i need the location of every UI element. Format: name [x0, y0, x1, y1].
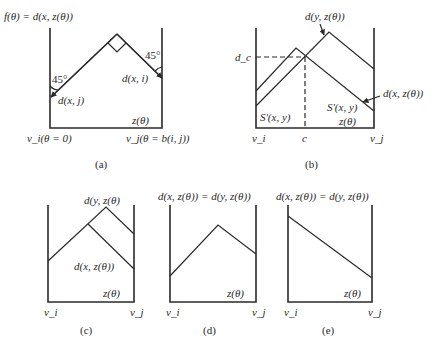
- panel-a-label-vj: v_j(θ = b(i, j)): [126, 132, 190, 145]
- panel-a-right-angle-icon: [108, 43, 126, 52]
- panel-a-angle-right: 45°: [145, 49, 160, 61]
- panel-b-curve-y: [256, 32, 374, 106]
- panel-b-label-dc: d_c: [235, 51, 251, 63]
- panel-e-curve: [288, 216, 372, 278]
- panel-a-label-vi: v_i(θ = 0): [27, 132, 72, 145]
- panel-b-dx-pointer-arrow: [363, 96, 380, 102]
- panel-c-label-z: z(θ): [102, 287, 120, 300]
- panel-e-label-vj: v_j: [368, 306, 381, 318]
- panel-a-left-angle-arc-icon: [50, 86, 58, 90]
- panel-b: d(y, z(θ)) d(x, z(θ)) d_c S'(x, y) S'(x,…: [235, 10, 424, 171]
- panel-b-caption: (b): [305, 158, 318, 171]
- panel-d-label-vj: v_j: [252, 306, 265, 318]
- panel-d-caption: (d): [203, 324, 216, 337]
- panel-c: d(y, z(θ) d(x, z(θ)) z(θ) v_i v_j (c): [44, 194, 143, 337]
- panel-d-label-vi: v_i: [166, 306, 179, 318]
- panel-a-label-z: z(θ): [131, 114, 149, 127]
- panel-a-right-angle-arc-icon: [155, 67, 162, 71]
- panel-e: d(x, z(θ)) = d(y, z(θ)) z(θ) v_i v_j (e): [276, 190, 381, 337]
- panel-c-label-dy: d(y, z(θ): [84, 194, 120, 207]
- panel-b-label-z: z(θ): [338, 115, 356, 128]
- panel-a-angle-left: 45°: [52, 73, 67, 85]
- panel-e-title: d(x, z(θ)) = d(y, z(θ)): [276, 190, 369, 203]
- panel-c-label-vi: v_i: [44, 306, 57, 318]
- panel-b-label-s-right: S'(x, y): [327, 101, 358, 114]
- panel-a-label-dxj: d(x, j): [58, 94, 85, 107]
- panel-c-frame: [48, 205, 134, 302]
- panel-a: f(θ) = d(x, z(θ)) 45° 45° d(x, j) d(x, i…: [4, 10, 190, 171]
- panel-d-title: d(x, z(θ)) = d(y, z(θ)): [158, 190, 251, 203]
- panel-b-label-c: c: [302, 132, 307, 144]
- panel-c-label-dx: d(x, z(θ)): [74, 260, 115, 273]
- panel-d: d(x, z(θ)) = d(y, z(θ)) z(θ) v_i v_j (d): [158, 190, 265, 337]
- panel-b-dy-pointer-arrow: [320, 24, 324, 35]
- panel-c-label-vj: v_j: [130, 306, 143, 318]
- panel-d-label-z: z(θ): [226, 287, 244, 300]
- panel-a-left-arrow: [51, 34, 117, 97]
- panel-c-caption: (c): [80, 324, 93, 337]
- panel-d-curve: [170, 225, 256, 276]
- panel-e-label-vi: v_i: [284, 306, 297, 318]
- panel-e-label-z: z(θ): [343, 287, 361, 300]
- panel-b-label-vj: v_j: [370, 132, 383, 144]
- panel-a-label-dxi: d(x, i): [122, 72, 149, 85]
- panel-a-title: f(θ) = d(x, z(θ)): [4, 10, 73, 23]
- panel-c-curve-y: [48, 207, 134, 261]
- panel-b-label-dx: d(x, z(θ)): [383, 87, 424, 100]
- panel-b-label-vi: v_i: [252, 132, 265, 144]
- panel-b-label-s-left: S'(x, y): [260, 111, 291, 124]
- panel-a-caption: (a): [95, 158, 108, 171]
- figure-canvas: f(θ) = d(x, z(θ)) 45° 45° d(x, j) d(x, i…: [0, 0, 441, 345]
- panel-e-caption: (e): [322, 324, 335, 337]
- panel-b-label-dy: d(y, z(θ)): [305, 10, 345, 23]
